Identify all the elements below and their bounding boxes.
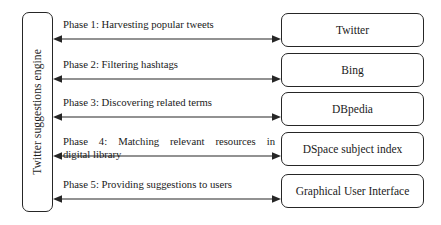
target-box-dspace-subject-index: DSpace subject index bbox=[281, 132, 424, 166]
phase-1-label-line-1: Phase 1: Harvesting popular tweets bbox=[63, 18, 214, 30]
target-box-twitter-label: Twitter bbox=[336, 24, 369, 37]
phase-4-label: Phase 4: Matching relevant resources in … bbox=[63, 135, 275, 161]
phase-5-label: Phase 5: Providing suggestions to users bbox=[63, 178, 275, 191]
target-box-dspace-subject-index-label: DSpace subject index bbox=[303, 143, 403, 156]
phase-2-label-line-1: Phase 2: Filtering hashtags bbox=[63, 58, 178, 70]
phase-3-label-line-1: Phase 3: Discovering related terms bbox=[63, 96, 212, 108]
phase-4-label-line-1: Phase 4: Matching relevant resources in bbox=[63, 135, 275, 148]
arrow-bidirectional-phase-3 bbox=[53, 111, 281, 123]
connector-phase-1: Phase 1: Harvesting popular tweets bbox=[53, 33, 281, 34]
phase-2-label: Phase 2: Filtering hashtags bbox=[63, 58, 275, 71]
phase-5-label-line-1: Phase 5: Providing suggestions to users bbox=[63, 178, 232, 190]
arrow-bidirectional-phase-5 bbox=[53, 193, 281, 205]
connector-phase-3: Phase 3: Discovering related terms bbox=[53, 111, 281, 112]
target-box-graphical-user-interface: Graphical User Interface bbox=[281, 174, 424, 208]
arrow-bidirectional-phase-1 bbox=[53, 33, 281, 45]
connector-phase-4: Phase 4: Matching relevant resources in … bbox=[53, 150, 281, 151]
arrow-bidirectional-phase-2 bbox=[53, 73, 281, 85]
phase-3-label: Phase 3: Discovering related terms bbox=[63, 96, 275, 109]
phase-1-label: Phase 1: Harvesting popular tweets bbox=[63, 18, 275, 31]
target-box-bing-label: Bing bbox=[341, 64, 363, 77]
connector-phase-5: Phase 5: Providing suggestions to users bbox=[53, 193, 281, 194]
connector-phase-2: Phase 2: Filtering hashtags bbox=[53, 73, 281, 74]
target-box-bing: Bing bbox=[281, 53, 424, 87]
target-box-dbpedia: DBpedia bbox=[281, 92, 424, 126]
engine-box-label: Twitter suggestions engine bbox=[32, 49, 44, 175]
target-box-twitter: Twitter bbox=[281, 13, 424, 47]
engine-box: Twitter suggestions engine bbox=[22, 12, 53, 212]
target-box-graphical-user-interface-label: Graphical User Interface bbox=[296, 185, 410, 198]
architecture-diagram: Twitter suggestions engine Phase 1: Harv… bbox=[0, 0, 441, 225]
phase-4-label-line-2: digital library bbox=[63, 148, 275, 161]
target-box-dbpedia-label: DBpedia bbox=[332, 103, 373, 116]
